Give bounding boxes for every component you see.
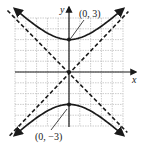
plot-canvas: y x (0, 3) (0, −3): [0, 0, 148, 156]
x-axis-label: x: [131, 74, 137, 85]
hyperbola-graph: y x (0, 3) (0, −3): [0, 0, 148, 156]
axes: [15, 7, 136, 127]
leader-line-bottom: [51, 109, 67, 130]
vertex-bottom-label: (0, −3): [35, 131, 62, 143]
point-marker: [67, 38, 71, 42]
vertex-top-label: (0, 3): [79, 8, 101, 20]
y-axis-label: y: [59, 4, 65, 15]
point-marker: [67, 102, 71, 106]
point-marker: [67, 70, 71, 74]
